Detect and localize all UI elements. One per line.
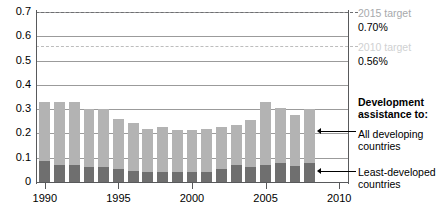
bar-2005[interactable] [260,12,271,182]
bar-1999[interactable] [172,12,183,182]
bar-1991[interactable] [54,12,65,182]
x-tick-label-2010: 2010 [319,192,359,204]
bar-segment-least-developed-2000 [187,172,198,182]
legend-all-developing-line2: countries [358,140,401,152]
bar-2002[interactable] [216,12,227,182]
y-tick-label-0-5: 0.5 [1,55,31,66]
target-2015-label: 2015 target [358,7,411,19]
x-tick-mark-1995 [118,183,119,189]
bar-segment-least-developed-2002 [216,169,227,182]
x-tick-label-2000: 2000 [172,192,212,204]
target-2010-value: 0.56% [358,55,388,67]
x-tick-mark-2010 [339,183,340,189]
bar-2004[interactable] [245,12,256,182]
bar-1997[interactable] [142,12,153,182]
x-tick-label-2005: 2005 [246,192,286,204]
x-tick-label-1995: 1995 [98,192,138,204]
x-tick-mark-2005 [266,183,267,189]
bar-segment-least-developed-2004 [245,167,256,182]
bar-1996[interactable] [128,12,139,182]
bar-segment-least-developed-1999 [172,172,183,182]
x-tick-mark-1990 [45,183,46,189]
y-tick-label-0-6: 0.6 [1,30,31,41]
legend-heading-line1: Development [358,96,424,108]
bar-segment-least-developed-1993 [84,167,95,182]
y-tick-label-0-1: 0.1 [1,152,31,163]
bar-1990[interactable] [39,12,50,182]
bar-segment-least-developed-2005 [260,165,271,182]
chart-container: 0.70.60.50.40.30.20.10 19901995200020052… [0,0,442,223]
x-tick-label-1990: 1990 [25,192,65,204]
bar-2001[interactable] [201,12,212,182]
legend-all-developing-line1: All developing [358,128,423,140]
bar-segment-least-developed-2006 [275,163,286,182]
bar-segment-least-developed-2007 [290,166,301,183]
bar-2000[interactable] [187,12,198,182]
bar-segment-least-developed-1994 [98,167,109,182]
bar-2007[interactable] [290,12,301,182]
bar-segment-least-developed-1995 [113,169,124,182]
bar-segment-least-developed-1991 [54,165,65,182]
y-tick-label-0-2: 0.2 [1,127,31,138]
legend-heading-line2: assistance to: [358,108,428,120]
bars-layer [36,12,348,182]
bar-segment-least-developed-2008 [304,163,315,182]
leader-line-all-developing [320,131,356,132]
bar-segment-least-developed-1996 [128,171,139,182]
legend-least-developed-line1: Least-developed [358,166,436,178]
x-tick-mark-2000 [192,183,193,189]
bar-segment-least-developed-1992 [69,165,80,182]
bar-2003[interactable] [231,12,242,182]
legend-least-developed-line2: countries [358,178,401,190]
bar-2008[interactable] [304,12,315,182]
bar-2006[interactable] [275,12,286,182]
target-2015-value: 0.70% [358,21,388,33]
bar-1995[interactable] [113,12,124,182]
bar-segment-least-developed-1990 [39,161,50,182]
y-tick-label-0-3: 0.3 [1,103,31,114]
leader-arrow-all-developing [317,128,321,134]
leader-line-least-developed [320,171,356,172]
bar-1993[interactable] [84,12,95,182]
y-tick-label-0-7: 0.7 [1,6,31,17]
y-tick-label-0-4: 0.4 [1,79,31,90]
bar-1994[interactable] [98,12,109,182]
bar-segment-least-developed-2003 [231,165,242,182]
bar-segment-least-developed-1997 [142,172,153,182]
plot-right-border [348,10,349,184]
bar-segment-least-developed-1998 [157,172,168,182]
bar-segment-least-developed-2001 [201,172,212,182]
target-2010-label: 2010 target [358,41,411,53]
bar-1998[interactable] [157,12,168,182]
y-tick-label-0: 0 [1,176,31,187]
bar-1992[interactable] [69,12,80,182]
leader-arrow-least-developed [317,168,321,174]
